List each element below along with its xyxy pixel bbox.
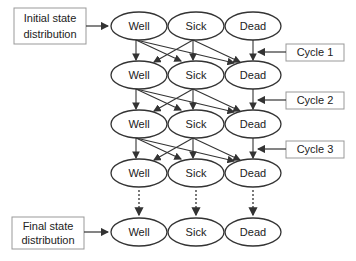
continuation-arrows [139,190,253,215]
state-node-well: Well [111,12,167,40]
final-label-2: distribution [21,234,74,246]
cycle-1-box: Cycle 1 [258,44,344,61]
state-label: Well [128,226,149,238]
state-node-sick: Sick [168,12,224,40]
state-node-dead: Dead [225,159,281,187]
state-label: Well [128,69,149,81]
svg-text:Cycle 2: Cycle 2 [297,94,334,106]
state-node-sick: Sick [168,61,224,89]
state-node-well: Well [111,218,167,246]
state-node-dead: Dead [225,12,281,40]
state-node-well: Well [111,159,167,187]
transitions [136,40,253,161]
final-state-box: Final state distribution [12,217,84,249]
state-label: Sick [186,118,207,130]
state-label: Dead [240,69,266,81]
state-label: Dead [240,20,266,32]
cycle-3-box: Cycle 3 [258,141,344,158]
state-label: Sick [186,69,207,81]
cycle-2-box: Cycle 2 [258,92,344,109]
svg-text:Cycle 1: Cycle 1 [297,46,334,58]
state-node-dead: Dead [225,110,281,138]
initial-state-box: Initial state distribution [14,8,86,44]
state-node-well: Well [111,61,167,89]
state-node-dead: Dead [225,61,281,89]
state-node-sick: Sick [168,159,224,187]
state-node-sick: Sick [168,110,224,138]
state-label: Sick [186,226,207,238]
state-label: Well [128,20,149,32]
state-label: Well [128,118,149,130]
state-label: Well [128,167,149,179]
state-label: Dead [240,118,266,130]
svg-text:Cycle 3: Cycle 3 [297,143,334,155]
state-node-dead: Dead [225,218,281,246]
state-label: Dead [240,226,266,238]
state-node-well: Well [111,110,167,138]
state-label: Dead [240,167,266,179]
state-label: Sick [186,167,207,179]
initial-label-2: distribution [23,28,76,40]
initial-label-1: Initial state [24,12,77,24]
state-label: Sick [186,20,207,32]
markov-diagram: Initial state distribution Final state d… [0,0,356,261]
final-label-1: Final state [23,220,74,232]
state-node-sick: Sick [168,218,224,246]
